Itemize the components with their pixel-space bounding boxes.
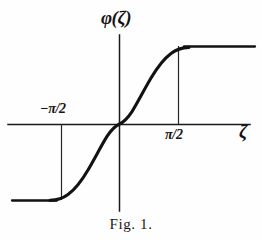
- x-axis-label: ζ: [239, 122, 247, 141]
- x-tick-label-negative-half-pi: −π/2: [40, 102, 66, 116]
- figure-caption: Fig. 1.: [0, 216, 262, 233]
- y-axis-label: φ(ζ): [101, 8, 131, 27]
- plot-canvas: [0, 0, 262, 240]
- figure-container: φ(ζ) ζ −π/2 π/2 Fig. 1.: [0, 0, 262, 240]
- x-tick-label-positive-half-pi: π/2: [165, 128, 183, 142]
